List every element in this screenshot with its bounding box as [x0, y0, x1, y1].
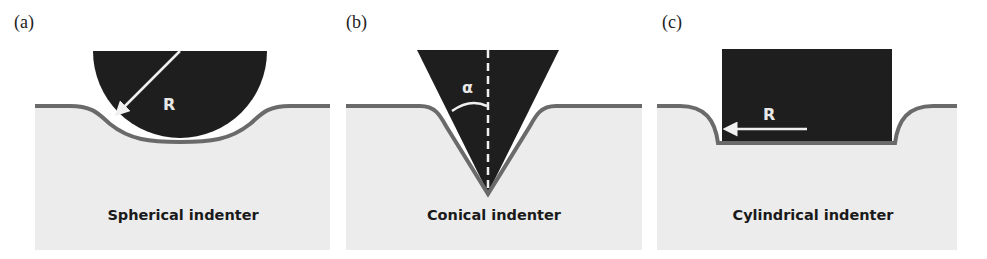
radius-symbol-c: R	[763, 105, 775, 124]
caption-a: Spherical indenter	[107, 207, 259, 223]
panel-c-cylindrical: R Cylindrical indenter	[657, 49, 957, 250]
caption-c: Cylindrical indenter	[732, 207, 894, 223]
indenter-figure: R Spherical indenter α Conical indenter …	[0, 0, 987, 259]
caption-b: Conical indenter	[427, 207, 562, 223]
radius-symbol-a: R	[163, 95, 175, 114]
cylindrical-indenter-shape	[722, 49, 892, 141]
spherical-indenter-shape	[93, 51, 267, 138]
angle-symbol-b: α	[462, 78, 473, 97]
panel-a-spherical: R Spherical indenter	[35, 51, 330, 250]
panel-b-conical: α Conical indenter	[346, 50, 642, 250]
